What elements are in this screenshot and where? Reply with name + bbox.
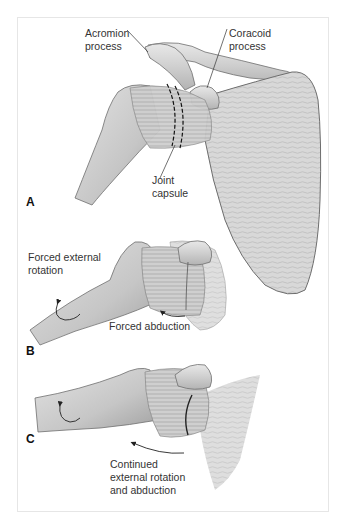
label-forced-external-rotation: Forced external rotation	[28, 251, 101, 277]
label-acromion-process: Acromion process	[85, 27, 129, 53]
coracoid-c	[175, 364, 212, 389]
panel-letter-a: A	[26, 195, 35, 209]
label-forced-abduction: Forced abduction	[109, 320, 190, 333]
humerus-c	[35, 368, 158, 432]
scapula	[205, 72, 321, 294]
label-joint-capsule: Joint capsule	[152, 174, 188, 200]
panel-letter-c: C	[26, 432, 35, 446]
label-coracoid-process: Coracoid process	[229, 27, 271, 53]
coracoid-b	[178, 241, 212, 265]
panel-letter-b: B	[26, 344, 35, 358]
label-continued-rotation-abduction: Continued external rotation and abductio…	[110, 458, 185, 497]
